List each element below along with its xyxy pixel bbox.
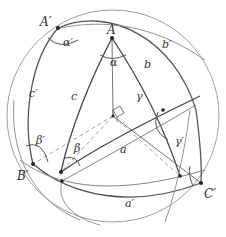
radius-to-B-prime-dashed — [33, 116, 113, 164]
label-alpha-prime: α′ — [63, 36, 73, 49]
great-circle-thin-5 — [165, 110, 190, 222]
label-C-prime: C′ — [204, 187, 216, 201]
label-gamma-prime: γ′ — [175, 135, 185, 148]
label-beta-prime: β′ — [35, 134, 45, 147]
point-gamma-side — [161, 108, 165, 112]
label-A-prime: A′ — [39, 15, 52, 29]
point-B-foot — [60, 179, 64, 183]
point-A-prime — [56, 26, 60, 30]
label-side-c: c — [71, 90, 77, 103]
spherical-triangle-diagram: A′ A B′ C′ α′ α γ β β′ γ′ c′ c b b′ a a′ — [0, 0, 226, 237]
label-side-b-prime: b′ — [162, 38, 172, 51]
label-side-c-prime: c′ — [29, 87, 38, 100]
label-A: A — [106, 23, 116, 37]
great-circle-thin-4 — [60, 24, 205, 60]
label-alpha: α — [110, 56, 118, 69]
point-B-prime — [31, 162, 35, 166]
arc-a — [61, 96, 200, 172]
arc-c — [61, 38, 112, 172]
right-angle-marker — [113, 106, 124, 122]
radius-to-A — [112, 38, 113, 116]
great-circle-thin-2 — [61, 181, 100, 225]
point-B — [59, 170, 63, 174]
label-beta: β — [73, 142, 80, 155]
label-gamma: γ — [136, 90, 143, 103]
label-B-prime: B′ — [16, 169, 29, 183]
angle-arc-gamma — [156, 112, 168, 140]
label-side-a: a — [120, 143, 127, 156]
label-side-b: b — [144, 58, 151, 71]
point-center — [111, 114, 114, 117]
arc-a-prime — [33, 164, 201, 197]
point-C-prime — [199, 181, 203, 185]
point-C — [178, 174, 182, 178]
label-side-a-prime: a′ — [125, 197, 135, 210]
great-circle-thin-1 — [14, 100, 80, 220]
